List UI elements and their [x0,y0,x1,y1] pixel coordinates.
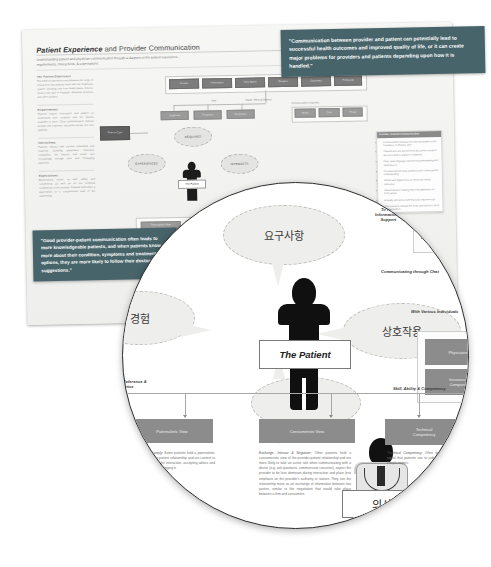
figure-head [292,278,316,307]
connector [419,393,420,417]
node-respect: Respect [268,77,298,88]
body-consumerist: Exchange, Interact & Negotiate: Other pa… [259,451,351,497]
caption-needs: Needs, Wants & Desires [245,98,271,101]
connector [173,103,265,105]
node-treatment: Treatment [194,110,222,120]
node-technical-competency: Technical Competency [385,419,463,445]
caption-various-individuals: With Various Individuals [411,309,458,314]
divider [39,170,95,172]
divider [37,104,93,106]
node-information: Information [202,78,232,89]
bubble-requirements-ko: 요구사항 [223,205,345,265]
narrative-body: Expectations center on skill, ability an… [39,178,95,199]
patient-figure: The Patient [177,161,208,204]
connector [331,393,332,417]
patient-label: The Patient [178,179,206,189]
magnifier-lens: 요구사항 경험 상호작용 기대 The Patient 의사 To Find I… [122,182,469,529]
body-lead: Defer, Trust & Comply: [129,451,163,455]
node-internet-email: The Internet & Email [421,213,469,239]
page-subtitle: Understanding patient and physician comm… [37,55,197,68]
bubble-requires: REQUIRES [174,126,212,147]
bubble-tail [181,323,211,337]
list-item: Clear, plain language reduces misunderst… [384,159,439,167]
arrow-down-icon [183,415,187,418]
node-paternalistic-view: Paternalistic View [131,419,213,443]
node-email: Email [295,108,316,117]
node-portal: Portal [343,107,363,116]
page-title-rest: and Provider Communication [102,43,200,54]
doctor-label: 의사 [342,490,422,518]
list-item: Empathy and active listening build long … [384,198,439,203]
figure-legs [366,518,398,529]
node-chat: Chat [319,108,340,117]
narrative-body: Patients interact with various individua… [38,145,94,166]
list-item: Written and digital follow up reinforces… [384,178,439,186]
narrative-body: The patient experience encompasses the r… [37,79,93,100]
caption-why: Why [211,99,216,102]
node-consumerists-view: Consumerists View [259,419,355,443]
narrative-block: Interactions Patients interact with vari… [38,141,95,172]
node-physicians-large: Physicians [425,339,469,365]
arrow-down-icon [417,415,421,418]
list-item: Providers should invite questions and co… [384,169,439,177]
body-technical: Technical Competency: Often the most vis… [387,451,461,466]
list-item: Shared decision making improves satisfac… [384,188,439,196]
node-time-spent: Time Spent [235,77,265,88]
body-text: Other patients hold a consumeristic view… [259,451,351,496]
page-title: Patient Experience and Provider Communic… [36,43,200,55]
quote-top: "Communication between provider and pati… [281,26,486,77]
caption-reference-expertise: For Reference & Expertise [122,379,147,389]
narrative-column: The Patient Experience The patient exper… [37,75,95,204]
figure-leg-gap [302,378,306,410]
node-insurance-large: Insurance Company [425,369,469,395]
node-diagnosis: Diagnosis [161,111,189,121]
patient-label-large: The Patient [259,340,351,369]
narrative-body: Patients require information and support… [38,112,94,133]
body-lead: Technical Competency: [387,451,423,455]
horizontal-axis-line [123,393,468,394]
bullet-panel: Provider / Patient Communication Communi… [376,130,444,213]
caption-channels: Communication Channels [291,101,318,105]
node-access: Access [169,79,199,90]
node-prevention: Prevention [227,110,255,120]
narrative-block: The Patient Experience The patient exper… [37,75,94,106]
body-lead: Exchange, Interact & Negotiate: [259,451,312,455]
narrative-block: Expectations Expectations center on skil… [39,174,95,199]
caption-to-find-info: To Find Information & Support [375,207,402,222]
arrow-down-icon [329,415,333,418]
connector [185,393,186,417]
node-outcomes: Outcomes [301,76,331,87]
divider [38,137,94,139]
caption-skill-ability: Skill, Ability & Competency [393,386,446,391]
bubble-experiences: EXPERIENCES [127,153,165,174]
node-point-of-care: Point of Care [100,126,130,141]
list-item: Communication between provider and patie… [383,140,438,148]
list-item: Patients who are well informed about the… [383,149,438,157]
connector [130,133,148,134]
narrative-block: Requirements Patients require informatio… [38,108,95,139]
bubble-interacts: INTERACTS [220,153,258,174]
body-paternalistic: Defer, Trust & Comply: Some patients hol… [129,451,215,471]
page-title-strong: Patient Experience [36,44,102,54]
node-follow-up: Follow Up [334,75,362,86]
caption-communicating-chat: Communicating through Chat [381,269,439,274]
